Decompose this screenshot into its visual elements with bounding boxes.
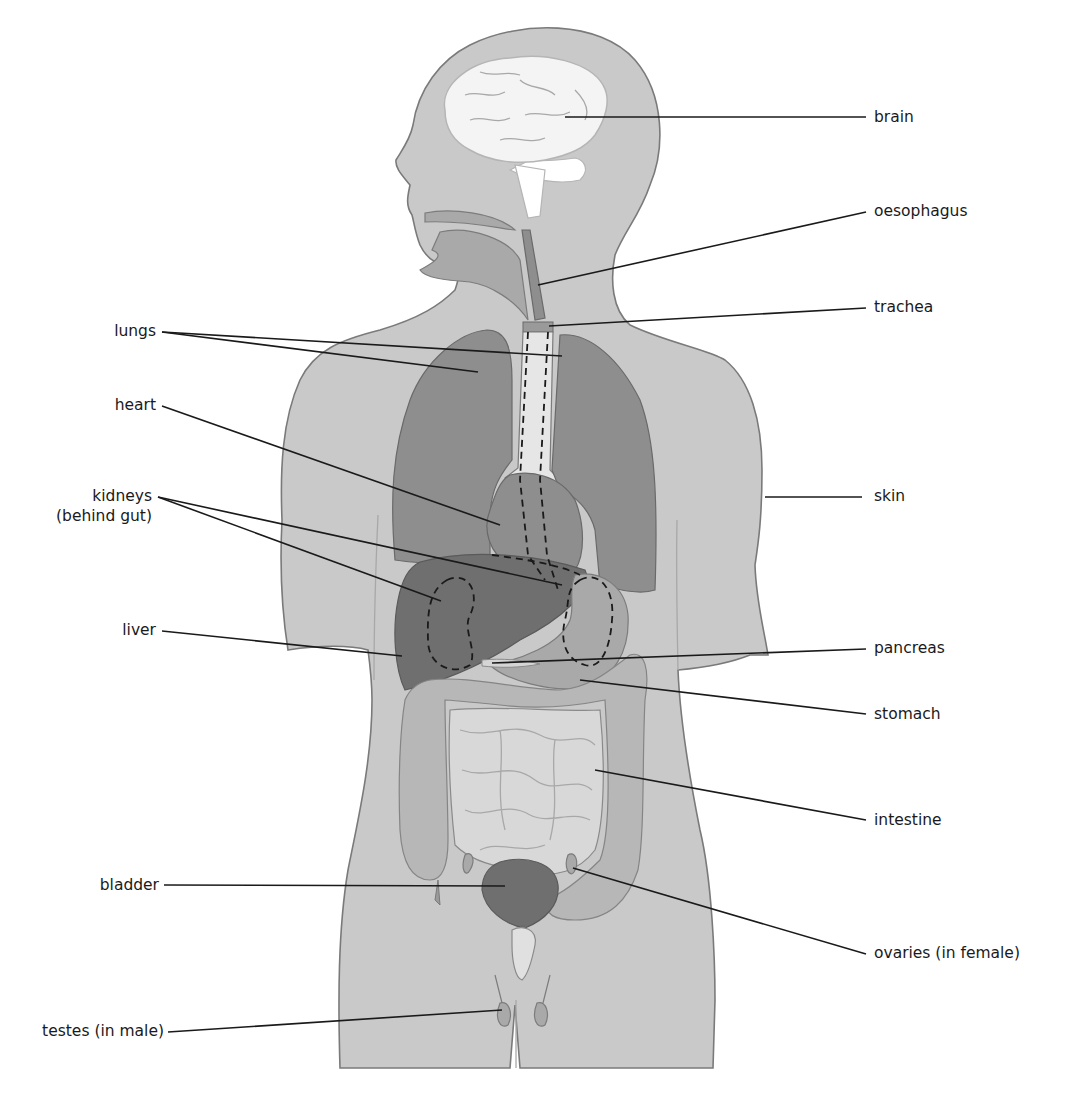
label-pancreas: pancreas	[874, 638, 945, 658]
body-organs-diagram	[0, 0, 1079, 1099]
label-kidneys-note: (behind gut)	[56, 506, 152, 526]
label-stomach: stomach	[874, 704, 941, 724]
label-intestine: intestine	[874, 810, 942, 830]
label-trachea: trachea	[874, 297, 933, 317]
label-skin: skin	[874, 486, 905, 506]
leader-bladder	[164, 885, 505, 886]
label-brain: brain	[874, 107, 914, 127]
label-lungs: lungs	[114, 321, 156, 341]
label-oesophagus: oesophagus	[874, 201, 967, 221]
label-testes: testes (in male)	[42, 1021, 164, 1041]
label-liver: liver	[122, 620, 156, 640]
label-bladder: bladder	[100, 875, 159, 895]
small-intestine-organ	[449, 708, 603, 874]
label-ovaries: ovaries (in female)	[874, 943, 1020, 963]
label-kidneys: kidneys	[92, 486, 152, 506]
label-heart: heart	[115, 395, 156, 415]
